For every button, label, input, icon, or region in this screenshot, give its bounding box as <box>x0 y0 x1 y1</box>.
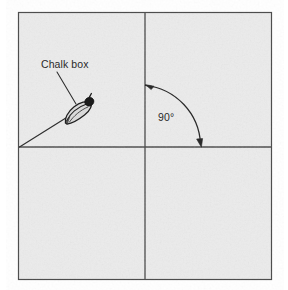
angle-label: 90° <box>158 111 174 123</box>
chalk-box-label: Chalk box <box>41 58 89 70</box>
chalk-box-diagram: Chalk box 90° <box>0 0 288 290</box>
figure-container: Chalk box 90° <box>0 0 288 290</box>
